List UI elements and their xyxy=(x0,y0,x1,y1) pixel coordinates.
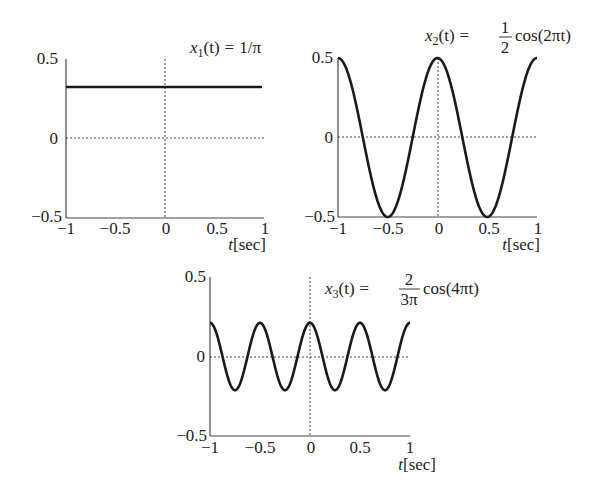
xtick-3: 0.5 xyxy=(206,219,227,238)
svg-text:cos(4πt): cos(4πt) xyxy=(423,279,479,298)
ytick-zero: 0 xyxy=(197,347,206,366)
x-axis-label: t[sec] xyxy=(228,235,266,254)
xtick-2: 0 xyxy=(435,219,444,238)
xtick-1: −0.5 xyxy=(245,438,276,457)
svg-text:x3(t)=: x3(t)= xyxy=(324,279,369,301)
plot-title: x2(t)= 1 2 cos(2πt) xyxy=(424,18,571,57)
svg-text:2: 2 xyxy=(405,270,414,289)
xtick-2: 0 xyxy=(162,219,171,238)
xtick-0: −1 xyxy=(57,219,75,238)
x-axis-label: t[sec] xyxy=(502,235,540,254)
xtick-1: −0.5 xyxy=(100,219,131,238)
xtick-2: 0 xyxy=(307,438,316,457)
xtick-3: 0.5 xyxy=(349,438,370,457)
figure: 0.5 0 −0.5 −1 −0.5 0 0.5 1 t[sec] x1(t)=… xyxy=(0,0,602,494)
x-axis-label: t[sec] xyxy=(398,455,436,474)
ytick-zero: 0 xyxy=(325,128,334,147)
plot-x3: 0.5 0 −0.5 −1 −0.5 0 0.5 1 t[sec] x3(t)=… xyxy=(176,267,479,474)
ytick-top: 0.5 xyxy=(37,49,58,68)
xtick-0: −1 xyxy=(329,219,347,238)
xtick-3: 0.5 xyxy=(478,219,499,238)
svg-text:1: 1 xyxy=(501,18,510,37)
ytick-top: 0.5 xyxy=(312,48,333,67)
plot-x2: 0.5 0 −0.5 −1 −0.5 0 0.5 1 t[sec] x2(t)=… xyxy=(304,18,571,254)
svg-text:cos(2πt): cos(2πt) xyxy=(515,26,571,45)
plot-title: x1(t)=1/π xyxy=(189,38,261,60)
xtick-1: −0.5 xyxy=(373,219,404,238)
plot-title: x3(t)= 2 3π cos(4πt) xyxy=(324,270,479,309)
ytick-top: 0.5 xyxy=(185,267,206,286)
plot-x1: 0.5 0 −0.5 −1 −0.5 0 0.5 1 t[sec] x1(t)=… xyxy=(31,38,269,254)
ytick-zero: 0 xyxy=(50,129,59,148)
xtick-0: −1 xyxy=(201,438,219,457)
svg-text:2: 2 xyxy=(501,38,510,57)
svg-text:3π: 3π xyxy=(400,290,418,309)
svg-text:x2(t)=: x2(t)= xyxy=(424,26,469,48)
